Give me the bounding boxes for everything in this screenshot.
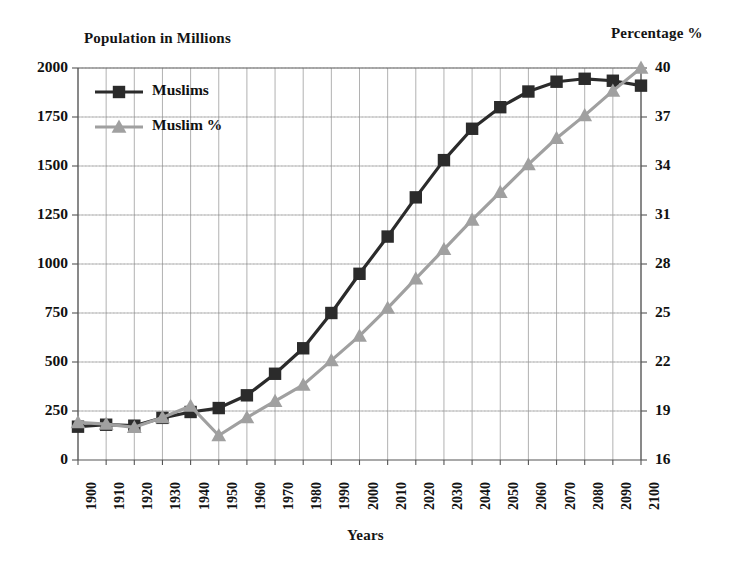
y-axis-tick-label: 1000	[37, 254, 68, 272]
data-point-marker	[634, 61, 649, 74]
data-point-marker	[381, 230, 393, 242]
data-point-marker	[353, 268, 365, 280]
data-point-marker	[579, 73, 591, 85]
data-point-marker	[410, 191, 422, 203]
legend-label-2: Muslim %	[152, 116, 222, 134]
y-axis-tick-label: 1500	[37, 156, 68, 174]
y2-axis-tick-label: 34	[655, 156, 671, 174]
data-point-marker	[635, 79, 647, 91]
y-axis-tick-label: 500	[45, 352, 68, 370]
y2-axis-tick-label: 25	[655, 303, 671, 321]
x-axis-tick-label: 1910	[112, 482, 128, 510]
x-axis-tick-label: 1920	[140, 482, 156, 510]
y-axis-tick-label: 750	[45, 303, 68, 321]
y2-axis-tick-label: 40	[655, 58, 671, 76]
data-point-marker	[438, 154, 450, 166]
x-axis-tick-label: 2000	[366, 482, 382, 510]
chart-container: Population in Millions Percentage % Year…	[0, 0, 749, 565]
data-point-marker	[241, 389, 253, 401]
data-point-marker	[269, 368, 281, 380]
x-axis-tick-label: 1950	[225, 482, 241, 510]
y2-axis-tick-label: 16	[655, 450, 671, 468]
x-axis-tick-label: 1960	[253, 482, 269, 510]
data-point-marker	[240, 410, 255, 423]
data-point-marker	[325, 307, 337, 319]
data-point-marker	[494, 101, 506, 113]
y-axis-tick-label: 1250	[37, 205, 68, 223]
y2-axis-tick-label: 19	[655, 401, 671, 419]
x-axis-tick-label: 1990	[337, 482, 353, 510]
data-point-marker	[550, 76, 562, 88]
x-axis-tick-label: 1930	[168, 482, 184, 510]
x-axis-tick-label: 2070	[563, 482, 579, 510]
x-axis-tick-label: 2010	[394, 482, 410, 510]
x-axis-tick-label: 2040	[478, 482, 494, 510]
x-axis-tick-label: 1940	[197, 482, 213, 510]
x-axis-tick-label: 1900	[84, 482, 100, 510]
y-axis-tick-label: 2000	[37, 58, 68, 76]
y2-axis-tick-label: 31	[655, 205, 671, 223]
y-axis-tick-label: 250	[45, 401, 68, 419]
x-axis-tick-label: 2100	[647, 482, 663, 510]
data-point-marker	[268, 394, 283, 407]
legend-marker-1	[113, 86, 125, 98]
data-point-marker	[183, 399, 198, 412]
x-axis-tick-label: 2020	[422, 482, 438, 510]
x-axis-tick-label: 1980	[309, 482, 325, 510]
y-axis-tick-label: 0	[60, 450, 68, 468]
plot-area	[0, 0, 749, 565]
y-axis-tick-label: 1750	[37, 107, 68, 125]
y2-axis-tick-label: 28	[655, 254, 671, 272]
legend-label-1: Muslims	[152, 81, 209, 99]
x-axis-tick-label: 2050	[506, 482, 522, 510]
data-point-marker	[213, 402, 225, 414]
x-axis-tick-label: 2090	[619, 482, 635, 510]
y2-axis-tick-label: 22	[655, 352, 671, 370]
y2-axis-tick-label: 37	[655, 107, 671, 125]
data-point-marker	[522, 85, 534, 97]
x-axis-tick-label: 2080	[591, 482, 607, 510]
data-point-marker	[466, 123, 478, 135]
data-point-marker	[297, 342, 309, 354]
x-axis-tick-label: 2030	[450, 482, 466, 510]
x-axis-tick-label: 2060	[534, 482, 550, 510]
x-axis-tick-label: 1970	[281, 482, 297, 510]
